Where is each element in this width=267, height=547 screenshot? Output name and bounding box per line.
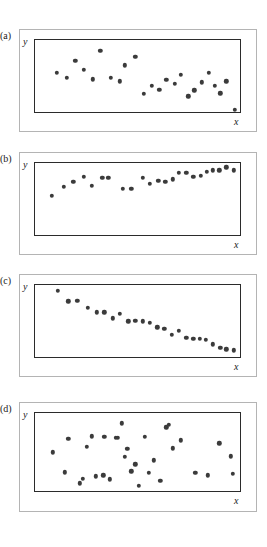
panel-label-4: (d) [0,403,12,414]
data-point [118,79,122,83]
data-point [177,170,181,174]
data-point [177,329,181,333]
data-point [204,338,208,342]
data-point [71,179,75,183]
x-axis-label-1: x [234,116,238,127]
data-point [207,70,211,74]
data-point [123,455,127,459]
data-point [166,423,170,427]
y-axis-label-3: y [23,281,27,292]
data-point [141,92,145,96]
data-point [62,184,66,188]
data-point [218,346,222,350]
data-point [140,176,144,180]
data-point [77,481,81,485]
data-point [140,319,144,323]
data-point [228,454,232,458]
scatter-panel-2: (b)yx [19,152,257,255]
data-point [152,458,156,462]
scatter-panel-1: (a)yx [19,29,257,132]
data-point [121,187,125,191]
data-point [66,299,70,303]
data-point [95,310,99,314]
y-axis-label-2: y [23,159,27,170]
data-point [232,348,236,352]
data-point [65,76,69,80]
data-point [224,79,228,83]
data-point [170,177,174,181]
data-point [224,347,228,351]
data-point [205,170,209,174]
data-point [106,176,110,180]
data-point [91,77,95,81]
data-point [206,473,210,477]
data-point [55,70,59,74]
data-point [148,321,152,325]
data-point [80,476,84,480]
data-point [101,473,105,477]
data-point [224,165,228,169]
data-point [118,312,122,316]
data-point [169,332,173,336]
data-point [133,55,137,59]
data-point [108,76,112,80]
data-point [184,170,188,174]
data-point [186,94,190,98]
data-point [197,337,201,341]
data-point [123,63,127,67]
data-point [66,436,70,440]
data-point [75,298,79,302]
data-point [136,484,140,488]
y-axis-label-4: y [23,409,27,420]
data-point [148,182,152,186]
data-point [218,91,222,95]
data-point [199,80,203,84]
x-axis-label-2: x [234,239,238,250]
data-point [110,316,114,320]
x-axis-label-4: x [234,495,238,506]
x-axis-label-3: x [234,361,238,372]
data-point [90,184,94,188]
data-point [184,335,188,339]
scatter-panel-4: (d)yx [19,402,257,512]
data-point [102,435,106,439]
panel-label-2: (b) [0,153,12,164]
data-point [158,479,162,483]
plot-area-1 [34,39,241,113]
data-point [94,474,98,478]
data-point [179,438,183,442]
data-point [63,470,67,474]
panel-label-3: (c) [0,275,11,286]
data-point [211,342,215,346]
data-point [217,168,221,172]
data-point [213,84,217,88]
data-point [73,59,77,63]
plot-area-3 [34,284,241,358]
data-point [163,179,167,183]
data-point [50,450,54,454]
data-point [116,436,120,440]
panel-label-1: (a) [0,30,11,41]
data-point [102,310,106,314]
data-point [100,176,104,180]
data-point [129,469,133,473]
data-point [85,444,89,448]
data-point [107,477,111,481]
data-point [125,447,129,451]
data-point [133,462,137,466]
data-point [56,289,60,293]
scatter-panel-3: (c)yx [19,274,257,377]
data-point [170,446,174,450]
data-point [90,434,94,438]
y-axis-label-1: y [23,36,27,47]
data-point [81,175,85,179]
data-point [192,88,196,92]
data-point [233,107,237,111]
data-point [230,472,234,476]
data-point [232,168,236,172]
plot-area-4 [34,412,241,492]
data-point [81,67,85,71]
data-point [157,87,161,91]
data-point [179,73,183,77]
data-point [193,471,197,475]
